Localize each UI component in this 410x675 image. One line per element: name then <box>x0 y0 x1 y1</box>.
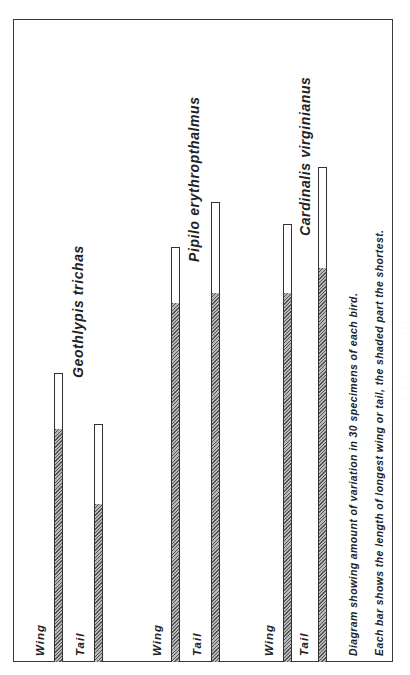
pipilo-wing-bar <box>171 247 180 662</box>
geothlypis-wing-label: Wing <box>34 624 46 656</box>
geothlypis-tail-shortest <box>95 504 102 662</box>
geothlypis-tail-bar <box>94 424 103 662</box>
pipilo-wing-label: Wing <box>151 624 163 656</box>
cardinalis-tail-shortest <box>319 268 326 662</box>
pipilo-tail-label: Tail <box>191 633 203 656</box>
cardinalis-wing-label: Wing <box>263 624 275 656</box>
geothlypis-species-label: Geothlypis trichas <box>70 245 86 378</box>
figure-caption-line2: Each bar shows the length of longest win… <box>373 230 385 656</box>
cardinalis-wing-bar <box>283 224 292 662</box>
geothlypis-wing-shortest <box>55 429 62 662</box>
geothlypis-tail-label: Tail <box>74 633 86 656</box>
pipilo-tail-bar <box>211 202 220 662</box>
pipilo-species-label: Pipilo erythropthalmus <box>186 96 202 262</box>
pipilo-tail-shortest <box>212 293 219 662</box>
cardinalis-tail-bar <box>318 167 327 662</box>
cardinalis-species-label: Cardinalis virginianus <box>297 77 313 236</box>
figure-caption-line1: Diagram showing amount of variation in 3… <box>347 293 359 656</box>
bleed-through-text: · · · · · · · · <box>398 318 407 400</box>
cardinalis-wing-shortest <box>284 293 291 662</box>
pipilo-wing-shortest <box>172 303 179 662</box>
cardinalis-tail-label: Tail <box>298 633 310 656</box>
geothlypis-wing-bar <box>54 373 63 662</box>
